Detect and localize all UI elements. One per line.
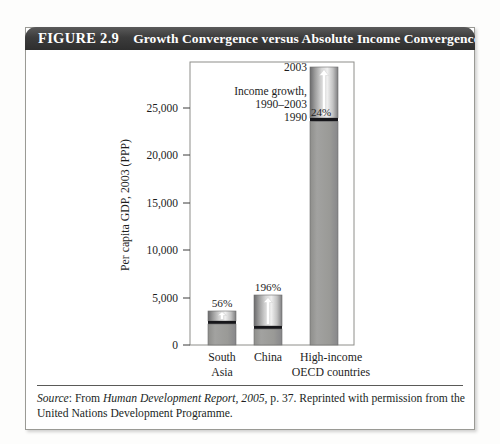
x-label-high-income-oecd-line1: High-income: [300, 350, 362, 364]
source-note: Source: From Human Development Report, 2…: [37, 391, 465, 421]
figure-number-label: FIGURE 2.9: [38, 30, 119, 47]
y-tick-label-0: 0: [172, 339, 178, 351]
bar-divider-south-asia: [208, 321, 236, 324]
bar-base-segment-south-asia: [208, 324, 236, 345]
growth-label-china: 196%: [255, 281, 282, 293]
y-axis: 25,000 20,000 15,000 10,000 5,000 0: [146, 102, 190, 351]
bar-base-segment-china: [254, 329, 282, 345]
bar-china: 196%: [254, 281, 282, 345]
annotation-middle-line-1: Income growth,: [234, 85, 307, 98]
x-label-high-income-oecd-line2: OECD countries: [292, 365, 371, 379]
figure-title: Growth Convergence versus Absolute Incom…: [133, 31, 475, 47]
y-tick-group-25000: 25,000: [146, 102, 190, 115]
bar-high-income-oecd: 24%: [310, 67, 338, 345]
bar-south-asia: 56%: [208, 297, 236, 345]
x-label-china-line1: China: [254, 350, 283, 364]
y-tick-group-20000: 20,000: [146, 149, 190, 162]
y-axis-title: Per capita GDP, 2003 (PPP): [118, 139, 132, 271]
growth-label-high-income-oecd: 24%: [311, 106, 331, 118]
annotation-middle-line-2: 1990–2003: [255, 98, 307, 110]
bar-base-segment-high-income-oecd: [310, 122, 338, 346]
x-label-south-asia-line2: Asia: [211, 365, 233, 379]
source-italic-1: Human Development Report, 2005: [103, 392, 265, 405]
y-tick-label-15000: 15,000: [146, 197, 178, 210]
source-divider: [37, 385, 463, 386]
growth-label-south-asia: 56%: [212, 297, 233, 309]
y-tick-group-5000: 5,000: [152, 292, 190, 305]
annotation-bottom-year: 1990: [284, 111, 307, 123]
x-label-south-asia-line1: South: [208, 350, 236, 364]
bar-divider-china: [254, 326, 282, 329]
y-tick-group-15000: 15,000: [146, 197, 190, 210]
bar-divider-high-income-oecd: [310, 118, 338, 122]
bar-chart: 25,000 20,000 15,000 10,000 5,000 0: [25, 50, 475, 385]
y-tick-group-10000: 10,000: [146, 244, 190, 257]
annotation-top-year: 2003: [284, 61, 307, 73]
x-axis-labels: South Asia China High-income OECD countr…: [208, 350, 370, 379]
figure-header-inner: FIGURE 2.9 Growth Convergence versus Abs…: [25, 30, 475, 47]
chart-area: 25,000 20,000 15,000 10,000 5,000 0: [25, 50, 475, 385]
y-tick-label-25000: 25,000: [146, 102, 178, 115]
y-tick-label-5000: 5,000: [152, 292, 178, 305]
y-tick-group-0: 0: [172, 339, 190, 351]
y-tick-label-20000: 20,000: [146, 149, 178, 162]
source-prefix: Source: [37, 392, 69, 405]
source-text-1: : From: [69, 392, 103, 405]
figure-header-bar: FIGURE 2.9 Growth Convergence versus Abs…: [25, 27, 475, 50]
y-tick-label-10000: 10,000: [146, 244, 178, 257]
